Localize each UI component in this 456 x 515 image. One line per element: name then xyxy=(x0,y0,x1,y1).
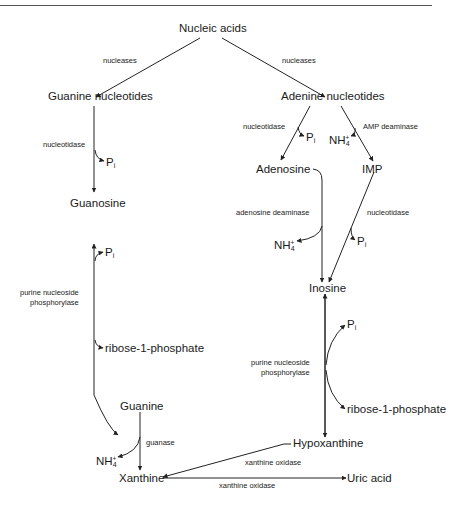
node-adenine-nucleotides: Adenine nucleotides xyxy=(281,90,385,103)
arrow-pi-guanosine xyxy=(95,150,104,161)
node-xanthine: Xanthine xyxy=(119,472,164,485)
arrow-nh4-guanase xyxy=(118,437,140,457)
enzyme-guanase: guanase xyxy=(146,438,175,447)
arrow-nucleases-right xyxy=(222,38,325,97)
enzyme-pnp-left-line2: phosphorylase xyxy=(30,298,79,307)
pathway-arrows xyxy=(0,0,456,515)
arrow-adenosine-inosine xyxy=(313,169,322,282)
node-hypoxanthine: Hypoxanthine xyxy=(293,437,363,450)
enzyme-nucleases-left: nucleases xyxy=(103,56,137,65)
byproduct-pi-imp: Pi xyxy=(357,235,366,251)
node-guanosine: Guanosine xyxy=(70,197,126,210)
node-guanine-nucleotides: Guanine nucleotides xyxy=(48,90,153,103)
arrow-ribose-left xyxy=(95,340,103,348)
arrow-pi-right xyxy=(326,325,345,365)
arrow-ribose-right xyxy=(326,370,345,409)
enzyme-adenosine-deaminase: adenosine deaminase xyxy=(236,208,309,217)
byproduct-nh4-guanase: NH4+ xyxy=(96,452,116,471)
byproduct-pi-adenosine: Pi xyxy=(306,131,315,147)
node-guanine: Guanine xyxy=(120,400,163,413)
enzyme-xanthine-oxidase-uric: xanthine oxidase xyxy=(219,481,275,490)
byproduct-nh4-imp: NH4+ xyxy=(329,131,349,150)
enzyme-pnp-right-line2: phosphorylase xyxy=(261,368,310,377)
enzyme-pnp-left-line1: purine nucleoside xyxy=(20,288,79,297)
byproduct-pi-guanosine: Pi xyxy=(106,156,115,172)
arrow-imp-inosine xyxy=(329,172,374,282)
arrow-guanine xyxy=(94,395,118,435)
node-inosine: Inosine xyxy=(309,282,346,295)
arrow-nucleases-left xyxy=(96,38,200,97)
arrow-nh4-adenosine xyxy=(297,226,322,241)
enzyme-xanthine-oxidase-hypo: xanthine oxidase xyxy=(245,458,301,467)
byproduct-pi-right: Pi xyxy=(347,318,356,334)
node-adenosine: Adenosine xyxy=(256,163,310,176)
arrow-pi-imp xyxy=(351,228,355,240)
enzyme-amp-deaminase: AMP deaminase xyxy=(363,122,418,131)
arrow-pi-adenosine xyxy=(298,127,304,136)
node-imp: IMP xyxy=(362,163,382,176)
enzyme-nucleases-right: nucleases xyxy=(282,56,316,65)
arrow-pi-left xyxy=(95,252,103,261)
node-nucleic-acids: Nucleic acids xyxy=(179,22,247,35)
enzyme-nucleotidase-imp: nucleotidase xyxy=(367,208,409,217)
enzyme-nucleotidase-adenine: nucleotidase xyxy=(243,122,285,131)
byproduct-nh4-adenosine: NH4+ xyxy=(274,236,294,255)
byproduct-pi-left: Pi xyxy=(105,246,114,262)
byproduct-ribose-right: ribose-1-phosphate xyxy=(347,403,446,416)
enzyme-nucleotidase-guanine: nucleotidase xyxy=(43,140,85,149)
byproduct-ribose-left: ribose-1-phosphate xyxy=(105,342,204,355)
enzyme-pnp-right-line1: purine nucleoside xyxy=(251,358,310,367)
node-uric-acid: Uric acid xyxy=(347,472,392,485)
